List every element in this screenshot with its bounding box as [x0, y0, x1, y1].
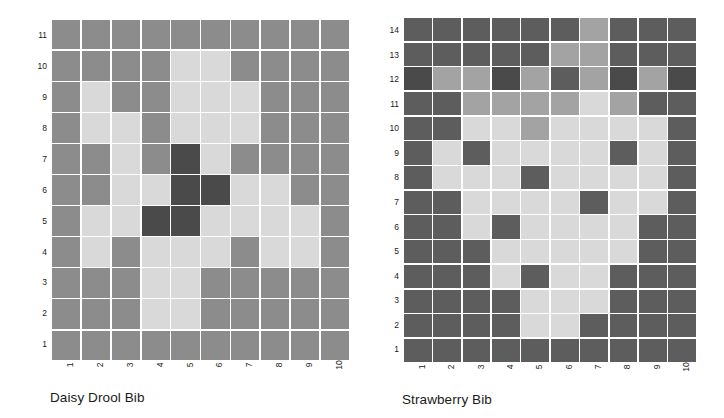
heatmap-cell[interactable] — [291, 299, 319, 328]
heatmap-cell[interactable] — [521, 141, 549, 164]
heatmap-cell[interactable] — [82, 51, 110, 80]
heatmap-cell[interactable] — [521, 265, 549, 288]
heatmap-cell[interactable] — [551, 215, 579, 238]
heatmap-cell[interactable] — [321, 299, 349, 328]
heatmap-cell[interactable] — [492, 43, 520, 66]
heatmap-cell[interactable] — [463, 141, 491, 164]
heatmap-cell[interactable] — [404, 43, 432, 66]
heatmap-cell[interactable] — [463, 117, 491, 140]
heatmap-cell[interactable] — [463, 92, 491, 115]
heatmap-cell[interactable] — [291, 237, 319, 266]
heatmap-cell[interactable] — [551, 92, 579, 115]
heatmap-cell[interactable] — [551, 43, 579, 66]
heatmap-cell[interactable] — [261, 113, 289, 142]
heatmap-cell[interactable] — [261, 299, 289, 328]
heatmap-cell[interactable] — [551, 191, 579, 214]
heatmap-cell[interactable] — [291, 20, 319, 49]
heatmap-cell[interactable] — [521, 117, 549, 140]
heatmap-cell[interactable] — [580, 191, 608, 214]
heatmap-cell[interactable] — [231, 144, 259, 173]
heatmap-cell[interactable] — [580, 43, 608, 66]
heatmap-cell[interactable] — [639, 92, 667, 115]
heatmap-cell[interactable] — [551, 166, 579, 189]
heatmap-cell[interactable] — [610, 67, 638, 90]
heatmap-cell[interactable] — [463, 290, 491, 313]
heatmap-cell[interactable] — [404, 290, 432, 313]
heatmap-cell[interactable] — [492, 290, 520, 313]
heatmap-cell[interactable] — [112, 206, 140, 235]
heatmap-cell[interactable] — [261, 175, 289, 204]
heatmap-cell[interactable] — [433, 339, 461, 362]
heatmap-cell[interactable] — [201, 51, 229, 80]
heatmap-cell[interactable] — [639, 166, 667, 189]
heatmap-cell[interactable] — [639, 117, 667, 140]
heatmap-cell[interactable] — [521, 314, 549, 337]
heatmap-cell[interactable] — [201, 82, 229, 111]
heatmap-cell[interactable] — [82, 331, 110, 360]
heatmap-cell[interactable] — [82, 175, 110, 204]
heatmap-cell[interactable] — [580, 92, 608, 115]
heatmap-cell[interactable] — [610, 43, 638, 66]
heatmap-cell[interactable] — [404, 141, 432, 164]
heatmap-cell[interactable] — [404, 191, 432, 214]
heatmap-cell[interactable] — [201, 175, 229, 204]
heatmap-cell[interactable] — [551, 67, 579, 90]
heatmap-cell[interactable] — [610, 240, 638, 263]
heatmap-cell[interactable] — [492, 18, 520, 41]
heatmap-cell[interactable] — [639, 339, 667, 362]
heatmap-cell[interactable] — [291, 82, 319, 111]
heatmap-cell[interactable] — [463, 67, 491, 90]
heatmap-cell[interactable] — [668, 67, 696, 90]
heatmap-cell[interactable] — [433, 141, 461, 164]
heatmap-cell[interactable] — [142, 113, 170, 142]
heatmap-cell[interactable] — [231, 51, 259, 80]
heatmap-cell[interactable] — [551, 240, 579, 263]
heatmap-cell[interactable] — [610, 191, 638, 214]
heatmap-cell[interactable] — [668, 117, 696, 140]
heatmap-cell[interactable] — [201, 237, 229, 266]
heatmap-cell[interactable] — [231, 82, 259, 111]
heatmap-cell[interactable] — [580, 67, 608, 90]
heatmap-cell[interactable] — [142, 51, 170, 80]
heatmap-cell[interactable] — [321, 82, 349, 111]
heatmap-cell[interactable] — [521, 92, 549, 115]
heatmap-cell[interactable] — [201, 144, 229, 173]
heatmap-cell[interactable] — [321, 175, 349, 204]
heatmap-cell[interactable] — [639, 265, 667, 288]
heatmap-cell[interactable] — [112, 268, 140, 297]
heatmap-cell[interactable] — [610, 215, 638, 238]
heatmap-cell[interactable] — [433, 215, 461, 238]
heatmap-cell[interactable] — [52, 144, 80, 173]
heatmap-cell[interactable] — [551, 117, 579, 140]
heatmap-cell[interactable] — [291, 331, 319, 360]
heatmap-cell[interactable] — [521, 290, 549, 313]
heatmap-cell[interactable] — [142, 268, 170, 297]
heatmap-cell[interactable] — [521, 18, 549, 41]
heatmap-cell[interactable] — [610, 339, 638, 362]
heatmap-cell[interactable] — [201, 206, 229, 235]
heatmap-cell[interactable] — [433, 240, 461, 263]
heatmap-cell[interactable] — [668, 92, 696, 115]
heatmap-cell[interactable] — [492, 67, 520, 90]
heatmap-cell[interactable] — [261, 331, 289, 360]
heatmap-cell[interactable] — [639, 314, 667, 337]
heatmap-cell[interactable] — [580, 240, 608, 263]
heatmap-cell[interactable] — [82, 237, 110, 266]
heatmap-cell[interactable] — [201, 331, 229, 360]
heatmap-cell[interactable] — [231, 175, 259, 204]
heatmap-cell[interactable] — [261, 237, 289, 266]
heatmap-cell[interactable] — [291, 175, 319, 204]
heatmap-cell[interactable] — [463, 166, 491, 189]
heatmap-cell[interactable] — [201, 299, 229, 328]
heatmap-cell[interactable] — [492, 240, 520, 263]
heatmap-cell[interactable] — [668, 43, 696, 66]
heatmap-cell[interactable] — [112, 51, 140, 80]
heatmap-cell[interactable] — [52, 175, 80, 204]
heatmap-cell[interactable] — [112, 175, 140, 204]
heatmap-cell[interactable] — [321, 268, 349, 297]
heatmap-cell[interactable] — [580, 117, 608, 140]
heatmap-cell[interactable] — [261, 82, 289, 111]
heatmap-cell[interactable] — [142, 20, 170, 49]
heatmap-cell[interactable] — [610, 92, 638, 115]
heatmap-cell[interactable] — [52, 20, 80, 49]
